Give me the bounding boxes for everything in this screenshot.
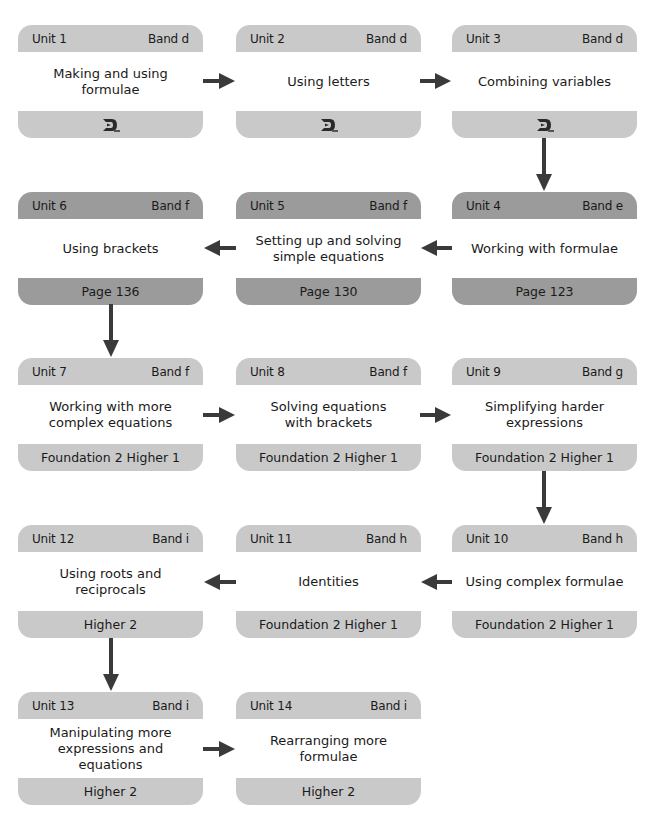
band-label: Band f: [369, 199, 407, 213]
unit-title: Combining variables: [452, 52, 637, 111]
unit-card-7: Unit 7Band f Working with more complex e…: [18, 358, 203, 471]
unit-card-3: Unit 3Band d Combining variables: [452, 25, 637, 138]
arrow-down-icon: [102, 638, 120, 692]
unit-card-13: Unit 13Band i Manipulating more expressi…: [18, 692, 203, 805]
unit-title: Solving equations with brackets: [236, 385, 421, 444]
page-reference: Page 123: [452, 278, 637, 305]
book-reference: Foundation 2 Higher 1: [236, 444, 421, 471]
band-label: Band d: [582, 32, 623, 46]
card-header: Unit 3Band d: [452, 25, 637, 52]
unit-label: Unit 6: [32, 199, 67, 213]
unit-card-10: Unit 10Band h Using complex formulae Fou…: [452, 525, 637, 638]
card-footer: [18, 111, 203, 138]
card-header: Unit 7Band f: [18, 358, 203, 385]
band-label: Band i: [152, 532, 189, 546]
unit-card-2: Unit 2Band d Using letters: [236, 25, 421, 138]
unit-label: Unit 14: [250, 699, 292, 713]
band-label: Band f: [151, 199, 189, 213]
unit-label: Unit 3: [466, 32, 501, 46]
unit-label: Unit 9: [466, 365, 501, 379]
card-header: Unit 14Band i: [236, 692, 421, 719]
book-reference: Foundation 2 Higher 1: [452, 611, 637, 638]
unit-label: Unit 11: [250, 532, 292, 546]
arrow-down-icon: [535, 471, 553, 525]
unit-card-12: Unit 12Band i Using roots and reciprocal…: [18, 525, 203, 638]
card-header: Unit 10Band h: [452, 525, 637, 552]
unit-label: Unit 8: [250, 365, 285, 379]
unit-title: Rearranging more formulae: [236, 719, 421, 778]
unit-card-5: Unit 5Band f Setting up and solving simp…: [236, 192, 421, 305]
book-reference: Higher 2: [236, 778, 421, 805]
arrow-right-icon: [420, 72, 452, 90]
unit-title: Making and using formulae: [18, 52, 203, 111]
unit-title: Identities: [236, 552, 421, 611]
arrow-right-icon: [420, 406, 452, 424]
dl-logo-icon: [319, 117, 339, 133]
unit-card-6: Unit 6Band f Using brackets Page 136: [18, 192, 203, 305]
unit-label: Unit 10: [466, 532, 508, 546]
unit-card-4: Unit 4Band e Working with formulae Page …: [452, 192, 637, 305]
card-footer: [236, 111, 421, 138]
book-reference: Foundation 2 Higher 1: [236, 611, 421, 638]
unit-card-9: Unit 9Band g Simplifying harder expressi…: [452, 358, 637, 471]
arrow-right-icon: [203, 406, 236, 424]
card-header: Unit 5Band f: [236, 192, 421, 219]
band-label: Band i: [370, 699, 407, 713]
arrow-right-icon: [203, 72, 236, 90]
band-label: Band e: [582, 199, 623, 213]
unit-title: Simplifying harder expressions: [452, 385, 637, 444]
unit-card-1: Unit 1Band d Making and using formulae: [18, 25, 203, 138]
arrow-down-icon: [535, 138, 553, 192]
unit-label: Unit 7: [32, 365, 67, 379]
unit-card-14: Unit 14Band i Rearranging more formulae …: [236, 692, 421, 805]
unit-label: Unit 12: [32, 532, 74, 546]
dl-logo-icon: [101, 117, 121, 133]
band-label: Band g: [582, 365, 623, 379]
unit-card-8: Unit 8Band f Solving equations with brac…: [236, 358, 421, 471]
band-label: Band d: [366, 32, 407, 46]
unit-label: Unit 13: [32, 699, 74, 713]
unit-label: Unit 5: [250, 199, 285, 213]
card-header: Unit 12Band i: [18, 525, 203, 552]
card-header: Unit 4Band e: [452, 192, 637, 219]
unit-title: Manipulating more expressions and equati…: [18, 719, 203, 778]
book-reference: Higher 2: [18, 611, 203, 638]
band-label: Band d: [148, 32, 189, 46]
band-label: Band h: [582, 532, 623, 546]
band-label: Band i: [152, 699, 189, 713]
card-header: Unit 9Band g: [452, 358, 637, 385]
unit-title: Using complex formulae: [452, 552, 637, 611]
arrow-left-icon: [420, 239, 452, 257]
unit-label: Unit 1: [32, 32, 67, 46]
book-reference: Foundation 2 Higher 1: [18, 444, 203, 471]
arrow-left-icon: [203, 239, 236, 257]
page-reference: Page 136: [18, 278, 203, 305]
unit-label: Unit 2: [250, 32, 285, 46]
arrow-left-icon: [203, 573, 236, 591]
card-header: Unit 1Band d: [18, 25, 203, 52]
card-header: Unit 2Band d: [236, 25, 421, 52]
book-reference: Higher 2: [18, 778, 203, 805]
card-header: Unit 13Band i: [18, 692, 203, 719]
card-footer: [452, 111, 637, 138]
unit-title: Working with more complex equations: [18, 385, 203, 444]
book-reference: Foundation 2 Higher 1: [452, 444, 637, 471]
card-header: Unit 11Band h: [236, 525, 421, 552]
unit-title: Working with formulae: [452, 219, 637, 278]
arrow-left-icon: [420, 573, 452, 591]
dl-logo-icon: [535, 117, 555, 133]
unit-title: Using brackets: [18, 219, 203, 278]
unit-label: Unit 4: [466, 199, 501, 213]
card-header: Unit 6Band f: [18, 192, 203, 219]
card-header: Unit 8Band f: [236, 358, 421, 385]
unit-title: Using letters: [236, 52, 421, 111]
unit-title: Setting up and solving simple equations: [236, 219, 421, 278]
arrow-down-icon: [102, 304, 120, 358]
band-label: Band f: [369, 365, 407, 379]
band-label: Band h: [366, 532, 407, 546]
arrow-right-icon: [203, 740, 236, 758]
page-reference: Page 130: [236, 278, 421, 305]
unit-title: Using roots and reciprocals: [18, 552, 203, 611]
unit-card-11: Unit 11Band h Identities Foundation 2 Hi…: [236, 525, 421, 638]
band-label: Band f: [151, 365, 189, 379]
